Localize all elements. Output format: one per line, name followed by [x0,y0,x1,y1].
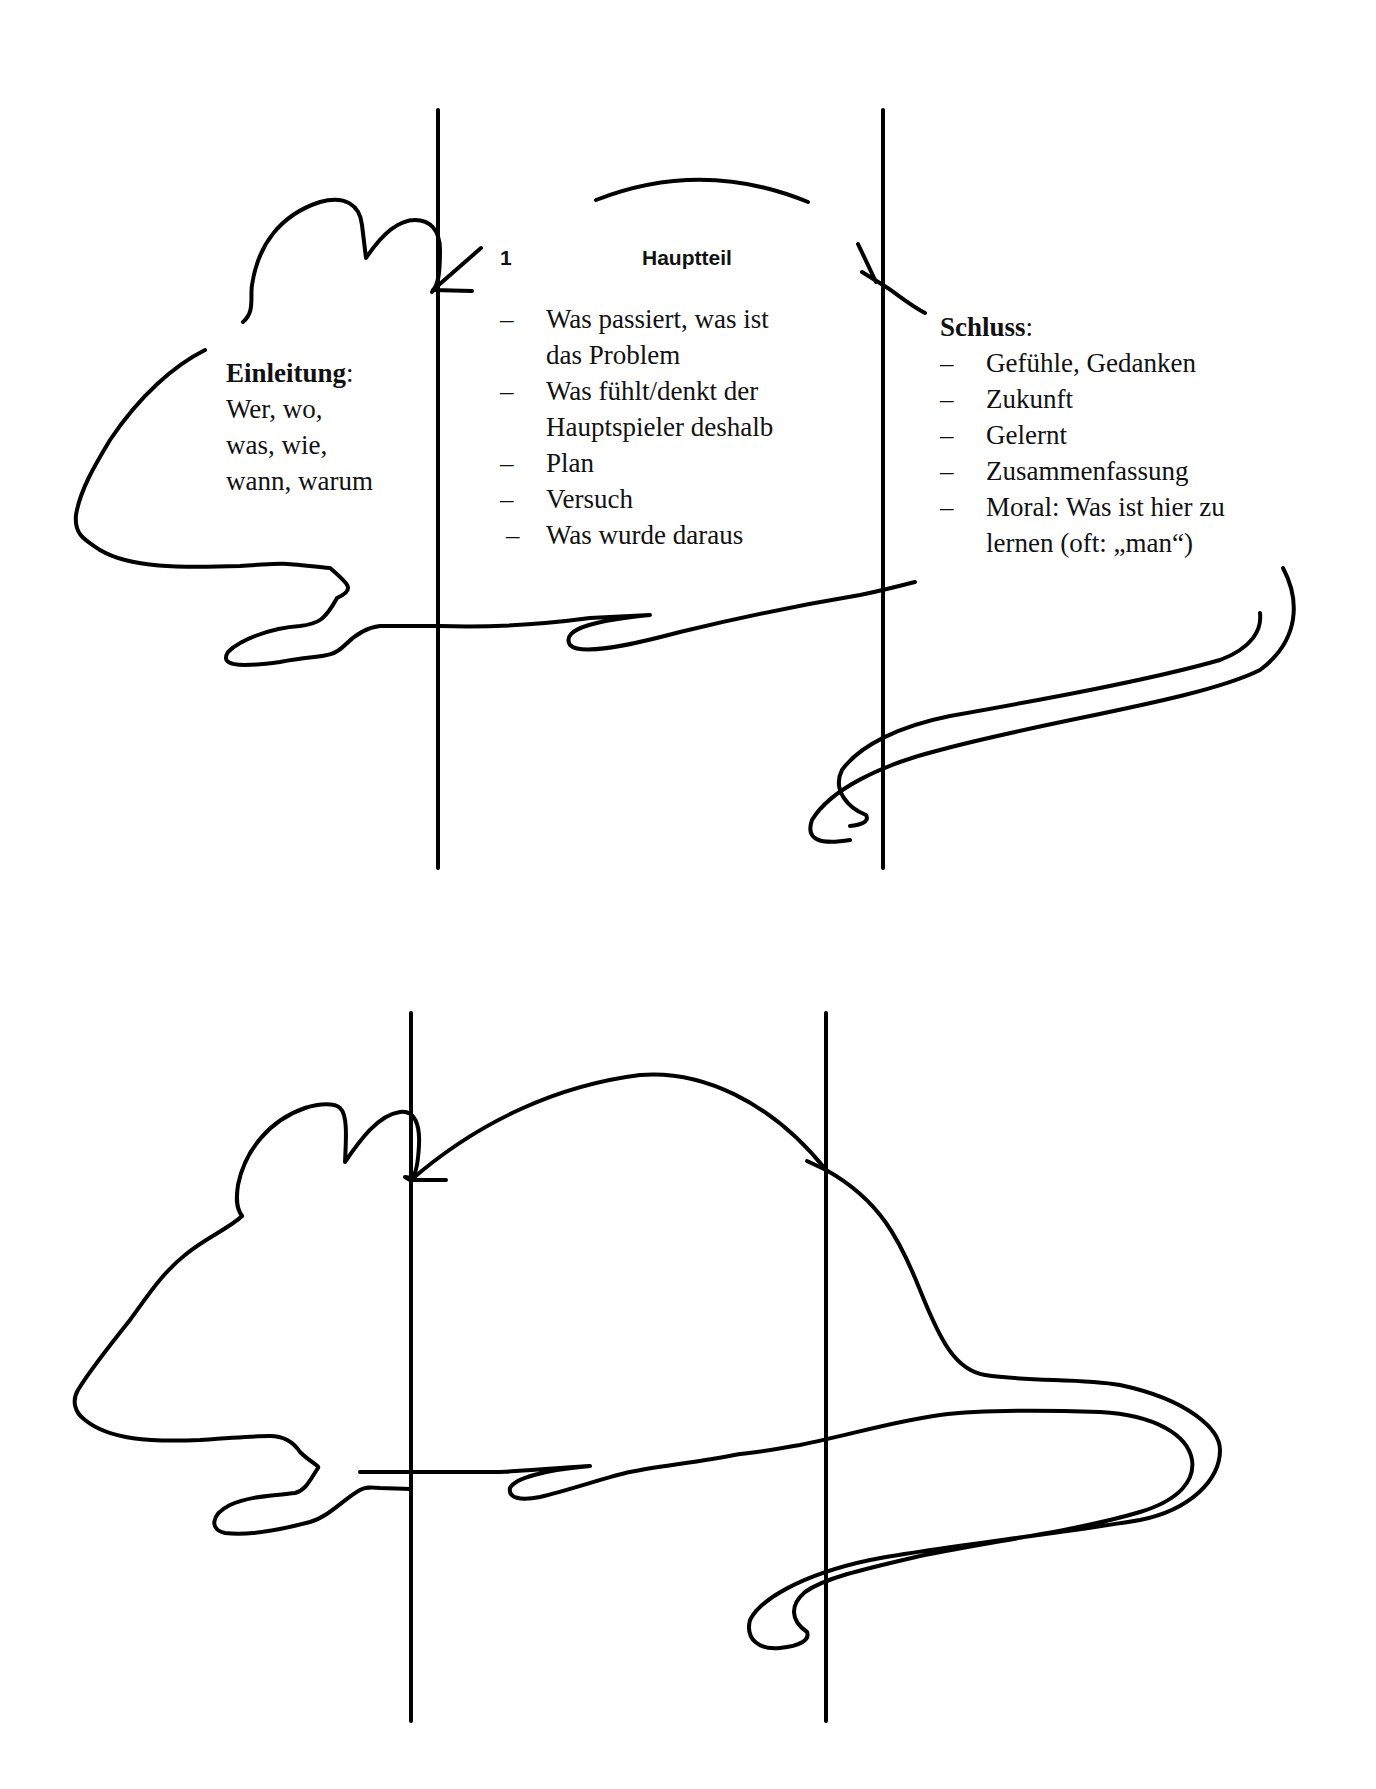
hauptteil-heading: Hauptteil [642,246,732,270]
schluss-item-line: Gefühle, Gedanken [986,345,1225,381]
einleitung-line: wann, warum [226,463,373,499]
bottom-mouse-outline [75,1013,1220,1721]
einleitung-line: was, wie, [226,427,373,463]
schluss-item: – Gelernt [940,417,1225,453]
hauptteil-item: – Was passiert, was ist das Problem [500,301,773,373]
bottom-mouse-tail-inner [740,1411,1192,1512]
bottom-mouse-back [411,1074,826,1180]
hauptteil-list: – Was passiert, was ist das Problem – Wa… [500,301,773,553]
bottom-mouse-rear [749,1170,1220,1648]
dash-bullet: – [500,373,514,409]
dash-bullet: – [940,417,954,453]
dash-bullet: – [500,301,514,337]
schluss-section: Schluss: – Gefühle, Gedanken – Zukunft –… [940,309,1225,561]
hauptteil-item-line: Versuch [546,481,773,517]
hauptteil-item: – Plan [500,445,773,481]
hauptteil-item: – Versuch [500,481,773,517]
top-mouse-foot [568,582,915,650]
hauptteil-item-line: Was wurde daraus [546,517,773,553]
einleitung-section: Einleitung: Wer, wo, was, wie, wann, war… [226,355,373,499]
hauptteil-number: 1 [500,246,512,270]
schluss-item-line: lernen (oft: „man“) [986,525,1225,561]
top-mouse-back [596,180,808,202]
dash-bullet: – [500,481,514,517]
schluss-item: – Zukunft [940,381,1225,417]
schluss-item-line: Zusammenfassung [986,453,1225,489]
schluss-item: – Zusammenfassung [940,453,1225,489]
schluss-item-line: Moral: Was ist hier zu [986,489,1225,525]
dash-bullet: – [940,381,954,417]
bottom-mouse-face [75,1216,411,1534]
schluss-item-line: Gelernt [986,417,1225,453]
schluss-heading: Schluss [940,312,1026,342]
dash-bullet: – [506,517,520,553]
einleitung-colon: : [346,358,354,388]
dash-bullet: – [940,489,954,525]
top-mouse-tail-inner [839,613,1260,826]
worksheet-canvas: Einleitung: Wer, wo, was, wie, wann, war… [0,0,1376,1789]
hauptteil-item-line: Hauptspieler deshalb [546,409,773,445]
dash-bullet: – [500,445,514,481]
dash-bullet: – [940,345,954,381]
hauptteil-item-line: das Problem [546,337,773,373]
schluss-colon: : [1026,312,1034,342]
hauptteil-item: – Was wurde daraus [506,517,773,553]
hauptteil-item-line: Plan [546,445,773,481]
schluss-item: – Gefühle, Gedanken [940,345,1225,381]
hauptteil-item-line: Was passiert, was ist [546,301,773,337]
einleitung-line: Wer, wo, [226,391,373,427]
hauptteil-item: – Was fühlt/denkt der Hauptspieler desha… [500,373,773,445]
einleitung-heading: Einleitung [226,358,346,388]
schluss-item: – Moral: Was ist hier zu lernen (oft: „m… [940,489,1225,561]
dash-bullet: – [940,453,954,489]
top-arrow-right [858,244,925,313]
schluss-item-line: Zukunft [986,381,1225,417]
top-mouse-ears [243,200,440,322]
bottom-mouse-belly [360,1454,740,1499]
hauptteil-item-line: Was fühlt/denkt der [546,373,773,409]
bottom-mouse-ears [237,1104,419,1216]
